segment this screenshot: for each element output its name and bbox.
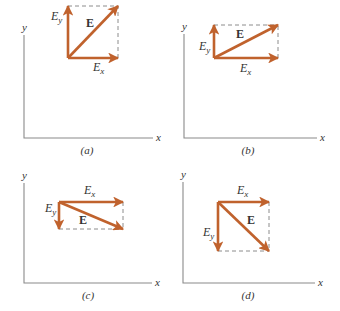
e-field-label: E xyxy=(79,213,87,227)
ex-label: Ex xyxy=(83,183,95,199)
e-field-arrow xyxy=(59,202,123,229)
y-axis-label: y xyxy=(180,168,186,180)
x-axis-label: x xyxy=(154,276,160,288)
e-field-label: E xyxy=(86,16,94,30)
ey-label: Ey xyxy=(198,39,210,55)
e-field-arrow xyxy=(214,25,278,58)
panel-caption: (c) xyxy=(82,289,95,302)
ey-label: Ey xyxy=(202,225,214,241)
panel-c: yxEExEy(c) xyxy=(21,169,160,302)
figure-canvas: yxEExEy(a)yxEExEy(b)yxEExEy(c)yxEExEy(d) xyxy=(0,0,340,311)
ex-label: Ex xyxy=(239,61,251,77)
panel-a: yxEExEy(a) xyxy=(21,6,161,157)
ex-label: Ex xyxy=(92,60,104,76)
axes xyxy=(24,35,153,138)
y-axis-label: y xyxy=(21,169,27,181)
x-axis-label: x xyxy=(319,131,325,143)
x-axis-label: x xyxy=(155,131,161,143)
ey-label: Ey xyxy=(50,9,62,25)
e-field-arrow xyxy=(218,202,269,251)
e-field-label: E xyxy=(236,27,244,41)
panel-d: yxEExEy(d) xyxy=(180,168,323,302)
x-axis-label: x xyxy=(317,276,323,288)
e-field-arrow xyxy=(68,6,118,58)
e-field-label: E xyxy=(247,213,255,227)
y-axis-label: y xyxy=(181,20,187,32)
panel-caption: (a) xyxy=(81,144,94,157)
panel-b: yxEExEy(b) xyxy=(181,20,325,157)
ex-label: Ex xyxy=(236,183,248,199)
y-axis-label: y xyxy=(21,21,27,33)
panel-caption: (b) xyxy=(242,144,255,157)
axes xyxy=(24,183,152,283)
panel-caption: (d) xyxy=(242,289,255,302)
vector-components-figure: yxEExEy(a)yxEExEy(b)yxEExEy(c)yxEExEy(d) xyxy=(0,0,340,311)
ey-label: Ey xyxy=(44,201,56,217)
